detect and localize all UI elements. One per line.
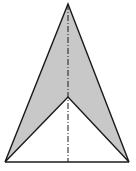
arrowhead-diagram bbox=[0, 0, 136, 171]
shaded-dart-region bbox=[5, 4, 129, 162]
